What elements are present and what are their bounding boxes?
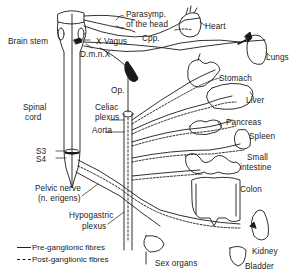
small-intestine-drawing <box>186 153 241 174</box>
label-stomach: Stomach <box>219 74 252 83</box>
legend-pre-ganglionic: Pre-ganglionic fibres <box>17 243 105 252</box>
label-brain-stem: Brain stem <box>8 37 48 46</box>
label-small-intestine-line2: intestine <box>240 163 271 172</box>
legend-pre-ganglionic-label: Pre-ganglionic fibres <box>32 243 105 252</box>
label-pancreas: Pancreas <box>226 118 261 127</box>
label-colon: Colon <box>240 185 262 194</box>
label-x-vagus: X Vagus <box>96 37 127 46</box>
label-pelvic-line2: (n. erigens) <box>38 194 81 203</box>
label-parasymp-line2: of the head <box>126 20 168 29</box>
label-cpp: Cpp. <box>142 34 160 43</box>
label-liver: Liver <box>246 96 264 105</box>
label-heart: Heart <box>205 22 226 31</box>
label-bladder: Bladder <box>245 262 274 271</box>
colon-drawing <box>192 177 240 226</box>
label-hypogastric-line2: plexus <box>82 222 106 231</box>
stomach-drawing <box>188 54 220 87</box>
lungs-drawing <box>238 32 267 64</box>
solid-line-swatch <box>17 247 31 248</box>
label-celiac-line1: Celiac <box>95 103 118 112</box>
parasympathetic-diagram: Brain stem Parasymp. of the head Heart X… <box>0 0 298 278</box>
label-hypogastric-line1: Hypogastric <box>69 211 113 220</box>
dashed-line-swatch <box>17 259 31 260</box>
cranial-fibres <box>84 15 265 80</box>
bladder-drawing <box>230 246 246 266</box>
label-lungs: Lungs <box>266 53 289 62</box>
label-dmnx: D.m.n.X <box>80 50 110 59</box>
label-spleen: Spleen <box>249 132 275 141</box>
visceral-fibres <box>76 70 244 228</box>
label-spinal-line2: cord <box>25 113 41 122</box>
aorta-drawing <box>123 111 133 250</box>
label-kidney: Kidney <box>252 247 278 256</box>
label-op: Op. <box>111 86 125 95</box>
label-celiac-line2: plexus <box>95 113 119 122</box>
label-sex-organs: Sex organs <box>155 259 197 268</box>
label-parasymp-line1: Parasymp. <box>126 10 166 19</box>
legend-post-ganglionic-label: Post-ganglionic fibres <box>32 255 108 264</box>
kidney-drawing <box>250 210 269 240</box>
label-s4: S4 <box>36 155 46 164</box>
label-aorta: Aorta <box>92 126 112 135</box>
ganglion-drawing <box>125 62 138 112</box>
legend-post-ganglionic: Post-ganglionic fibres <box>17 255 108 264</box>
label-spinal-line1: Spinal <box>23 103 46 112</box>
label-pelvic-line1: Pelvic nerve <box>35 184 81 193</box>
label-small-intestine-line1: Small <box>247 153 268 162</box>
heart-drawing <box>175 6 201 37</box>
